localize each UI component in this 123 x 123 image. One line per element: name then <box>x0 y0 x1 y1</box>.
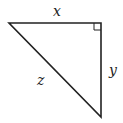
label-z: z <box>36 72 45 88</box>
label-x: x <box>53 3 61 19</box>
label-y: y <box>108 62 118 78</box>
right-triangle-diagram: x y z <box>0 0 123 123</box>
triangle <box>9 23 101 117</box>
right-angle-marker <box>94 23 101 30</box>
